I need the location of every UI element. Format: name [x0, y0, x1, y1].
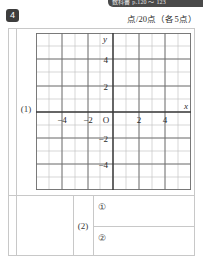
- axis-label-layer: y x 4 2 −2 −4 −4 −2 O 2 4: [36, 33, 191, 190]
- y-tick-2: 2: [104, 82, 109, 92]
- chapter-banner: 数科書 p.120 〜 123: [108, 0, 203, 7]
- y-axis-name: y: [102, 34, 107, 44]
- y-tick-neg4: −4: [98, 160, 108, 170]
- chapter-banner-label: 数科書 p.120 〜 123: [112, 0, 166, 6]
- answer-row-marker-2: ②: [98, 233, 106, 243]
- x-tick-neg2: −2: [83, 115, 93, 125]
- table-divider-horizontal-answers: [93, 226, 195, 227]
- coordinate-grid[interactable]: y x 4 2 −2 −4 −4 −2 O 2 4: [36, 33, 191, 190]
- y-tick-neg2: −2: [98, 134, 108, 144]
- part-label-1: (1): [16, 104, 36, 114]
- y-tick-4: 4: [104, 55, 109, 65]
- x-tick-neg4: −4: [57, 115, 67, 125]
- part-label-2: (2): [73, 221, 93, 231]
- table-divider-vertical-left: [16, 28, 17, 256]
- table-divider-horizontal-main: [8, 195, 195, 196]
- answer-row-marker-1: ①: [98, 202, 106, 212]
- origin-label: O: [103, 115, 110, 125]
- worksheet-page: 数科書 p.120 〜 123 4 点/20点（各5点） (1): [0, 0, 203, 263]
- question-number-badge: 4: [6, 9, 19, 22]
- x-axis-name: x: [183, 101, 188, 111]
- score-note: 点/20点（各5点）: [127, 12, 197, 24]
- x-tick-2: 2: [137, 115, 142, 125]
- x-tick-4: 4: [163, 115, 168, 125]
